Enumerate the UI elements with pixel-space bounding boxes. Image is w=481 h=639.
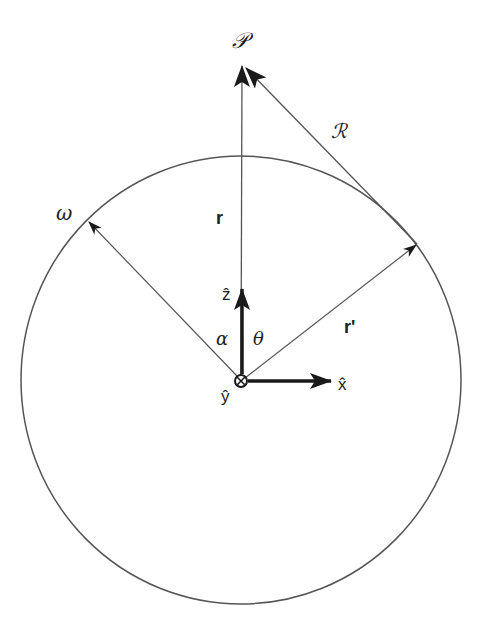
r-prime-vector bbox=[245, 245, 416, 378]
theta-label: θ bbox=[253, 328, 264, 349]
field-point-label: 𝒫 bbox=[232, 28, 254, 53]
x-hat-label: x̂ bbox=[338, 375, 347, 394]
diagram-canvas: 𝒫 ℛ r r' ω α θ ẑ x̂ ŷ bbox=[0, 0, 481, 639]
alpha-label: α bbox=[216, 328, 228, 349]
omega-radius-vector bbox=[89, 222, 238, 377]
r-label: r bbox=[216, 208, 223, 228]
R-vector bbox=[246, 68, 417, 244]
y-hat-into-page-icon bbox=[235, 375, 247, 387]
separation-label: ℛ bbox=[331, 119, 349, 143]
z-hat-label: ẑ bbox=[222, 285, 231, 304]
omega-label: ω bbox=[56, 201, 72, 225]
r-prime-label: r' bbox=[344, 317, 355, 337]
y-hat-label: ŷ bbox=[221, 387, 230, 406]
